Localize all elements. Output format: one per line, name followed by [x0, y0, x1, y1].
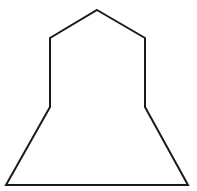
polygon-shape: [6, 10, 188, 185]
figure-canvas: [0, 0, 197, 191]
